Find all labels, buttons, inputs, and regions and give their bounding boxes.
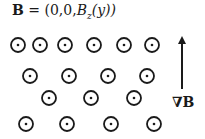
field-out-of-page-icon: [140, 69, 154, 83]
field-out-of-page-icon: [33, 38, 47, 52]
field-out-of-page-icon: [60, 117, 74, 131]
field-out-of-page-icon: [101, 69, 115, 83]
field-out-of-page-icon: [23, 69, 37, 83]
field-out-of-page-icon: [104, 117, 118, 131]
field-out-of-page-icon: [42, 91, 56, 105]
field-out-of-page-icon: [11, 38, 25, 52]
field-diagram: [0, 0, 205, 139]
gradient-arrow-up-icon: [178, 36, 186, 89]
field-out-of-page-icon: [127, 91, 141, 105]
field-out-of-page-icon: [19, 117, 33, 131]
field-out-of-page-icon: [84, 91, 98, 105]
field-out-of-page-icon: [117, 38, 131, 52]
field-out-of-page-icon: [62, 69, 76, 83]
field-out-of-page-icon: [87, 38, 101, 52]
field-out-of-page-icon: [145, 38, 159, 52]
gradient-label: ∇B: [172, 94, 194, 110]
field-out-of-page-icon: [58, 38, 72, 52]
field-out-of-page-icon: [147, 117, 161, 131]
